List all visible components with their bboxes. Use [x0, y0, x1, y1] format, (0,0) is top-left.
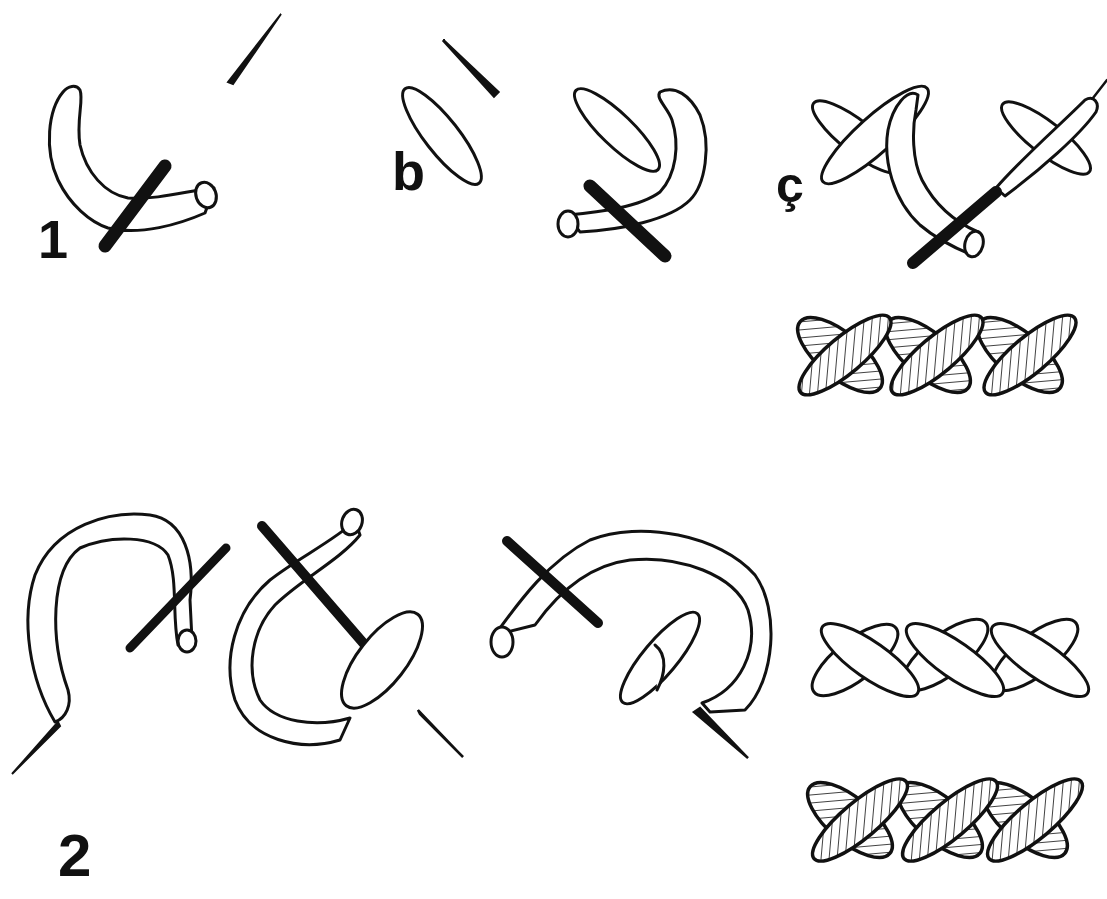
stitch-diagram: 1 b ç 2: [0, 0, 1107, 899]
panel-1: [49, 14, 281, 246]
panel-2: [12, 506, 771, 774]
stitch-icon: [565, 79, 669, 181]
step-label-c: ç: [776, 160, 804, 210]
step-label-2: 2: [58, 826, 91, 886]
thread-end-icon: [178, 630, 196, 652]
plain-braid-row: [802, 607, 1098, 708]
diagram-artwork: [0, 0, 1107, 899]
needle-tip-icon: [418, 710, 463, 757]
panel-b: [392, 40, 706, 256]
thread-tail-icon: [1093, 80, 1107, 98]
thread-icon: [28, 514, 192, 722]
needle-tip-icon: [12, 722, 60, 774]
step-label-1: 1: [38, 212, 68, 266]
needle-tip-icon: [694, 708, 748, 758]
needle-icon: [228, 14, 281, 84]
hatched-braid-row-1: [786, 304, 1086, 406]
thread-end-icon: [491, 627, 513, 657]
thread-icon: [230, 521, 360, 744]
thread-icon: [887, 93, 978, 255]
thread-end-icon: [558, 211, 578, 237]
step-label-b: b: [392, 144, 425, 198]
needle-icon: [443, 40, 498, 96]
panel-c: [804, 75, 1107, 263]
hatched-braid-row-2: [796, 768, 1093, 873]
